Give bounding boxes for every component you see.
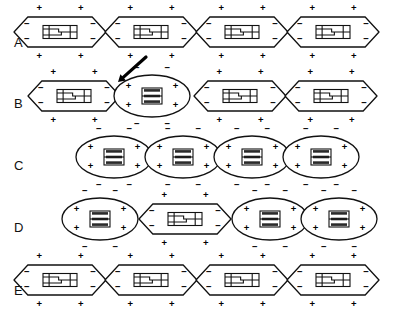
- muscle-cell[interactable]: ++++−−−−: [287, 2, 379, 61]
- inner-charge: −: [297, 33, 303, 44]
- myofibril-band: [175, 150, 191, 153]
- inner-charge: +: [74, 222, 80, 233]
- outer-charge: +: [349, 114, 355, 125]
- inner-charge: −: [363, 33, 369, 44]
- outer-charge: −: [134, 118, 140, 129]
- inner-charge: +: [204, 141, 210, 152]
- outer-charge: −: [234, 123, 240, 134]
- inner-charge: −: [270, 82, 276, 93]
- myofibril-band: [175, 161, 191, 164]
- muscle-cell[interactable]: −−−−++++: [76, 123, 152, 190]
- inner-charge: −: [90, 266, 96, 277]
- inner-charge: −: [104, 82, 110, 93]
- inner-charge: +: [126, 99, 132, 110]
- muscle-cell[interactable]: −−−−++++: [62, 185, 138, 252]
- inner-charge: +: [157, 160, 163, 171]
- inner-charge: −: [204, 97, 210, 108]
- outer-charge: −: [252, 185, 258, 196]
- muscle-cell[interactable]: −−−−++++: [145, 123, 221, 190]
- outer-charge: +: [37, 50, 43, 61]
- muscle-cell[interactable]: ++++−−−−: [105, 2, 197, 61]
- inner-charge: +: [173, 80, 179, 91]
- outer-charge: +: [128, 2, 134, 13]
- inner-charge: −: [272, 18, 278, 29]
- muscle-cell[interactable]: ++++−−−−: [287, 250, 379, 309]
- outer-charge: +: [260, 2, 266, 13]
- outer-charge: −: [195, 123, 201, 134]
- myofibril-band: [244, 150, 260, 153]
- outer-charge: +: [351, 50, 357, 61]
- inner-charge: −: [295, 82, 301, 93]
- muscle-cell[interactable]: ++++−−−−: [14, 250, 106, 309]
- inner-charge: −: [181, 281, 187, 292]
- inner-charge: −: [38, 97, 44, 108]
- inner-charge: −: [24, 18, 30, 29]
- inner-charge: −: [363, 266, 369, 277]
- inner-charge: +: [121, 203, 127, 214]
- outer-charge: +: [78, 50, 84, 61]
- inner-charge: −: [149, 220, 155, 231]
- inner-charge: +: [88, 160, 94, 171]
- muscle-cell[interactable]: ++++−−−−: [196, 2, 288, 61]
- muscle-cell[interactable]: ++++−−−−: [194, 66, 286, 125]
- inner-charge: −: [181, 18, 187, 29]
- outer-charge: +: [310, 298, 316, 309]
- inner-charge: +: [121, 222, 127, 233]
- outer-charge: +: [217, 66, 223, 77]
- outer-charge: +: [219, 2, 225, 13]
- labels-layer: ABCDE: [14, 35, 23, 298]
- outer-charge: +: [203, 189, 209, 200]
- muscle-cell[interactable]: ++++−−−−: [139, 189, 231, 248]
- outer-charge: +: [169, 298, 175, 309]
- inner-charge: −: [90, 281, 96, 292]
- outer-charge: −: [195, 179, 201, 190]
- outer-charge: +: [37, 298, 43, 309]
- myofibril-band: [144, 100, 160, 103]
- outer-charge: +: [351, 250, 357, 261]
- outer-charge: −: [282, 241, 288, 252]
- inner-charge: −: [297, 18, 303, 29]
- muscle-cell[interactable]: ++++−−−−: [285, 66, 377, 125]
- muscle-cell[interactable]: ++++−−−−: [196, 250, 288, 309]
- outer-charge: −: [264, 123, 270, 134]
- inner-charge: −: [149, 205, 155, 216]
- inner-charge: −: [24, 266, 30, 277]
- inner-charge: −: [115, 33, 121, 44]
- inner-charge: +: [135, 160, 141, 171]
- outer-charge: +: [351, 2, 357, 13]
- outer-charge: +: [258, 66, 264, 77]
- inner-charge: −: [361, 97, 367, 108]
- outer-charge: +: [92, 66, 98, 77]
- outer-charge: −: [82, 185, 88, 196]
- myofibril-band: [92, 212, 108, 215]
- inner-charge: −: [215, 220, 221, 231]
- inner-charge: −: [115, 266, 121, 277]
- outer-charge: +: [219, 50, 225, 61]
- myofibril-band: [106, 161, 122, 164]
- row-label-D: D: [14, 220, 23, 235]
- inner-charge: +: [342, 160, 348, 171]
- inner-charge: +: [295, 141, 301, 152]
- myofibril-band: [331, 212, 347, 215]
- muscle-cell[interactable]: −−−−++++: [214, 123, 290, 190]
- muscle-cell[interactable]: −−−−++++: [232, 185, 308, 252]
- inner-charge: −: [270, 97, 276, 108]
- muscle-cell[interactable]: −−−−++++: [301, 185, 377, 252]
- muscle-cell[interactable]: ++++−−−−: [28, 66, 120, 125]
- cell-chain-row-A: ++++−−−−++++−−−−++++−−−−++++−−−−: [14, 2, 379, 61]
- inner-charge: +: [74, 203, 80, 214]
- inner-charge: −: [215, 205, 221, 216]
- muscle-cell[interactable]: ++++−−−−: [105, 250, 197, 309]
- muscle-cell[interactable]: −−−−++++: [114, 62, 190, 129]
- outer-charge: +: [78, 298, 84, 309]
- outer-charge: −: [165, 123, 171, 134]
- outer-charge: −: [164, 62, 170, 73]
- outer-charge: +: [217, 114, 223, 125]
- muscle-cell[interactable]: −−−−++++: [283, 123, 359, 190]
- muscle-cell[interactable]: ++++−−−−: [14, 2, 106, 61]
- cell-chain-row-D: −−−−++++++++−−−−−−−−++++−−−−++++: [62, 185, 377, 252]
- inner-charge: +: [313, 203, 319, 214]
- outer-charge: +: [51, 114, 57, 125]
- outer-charge: +: [51, 66, 57, 77]
- myofibril-band: [262, 212, 278, 215]
